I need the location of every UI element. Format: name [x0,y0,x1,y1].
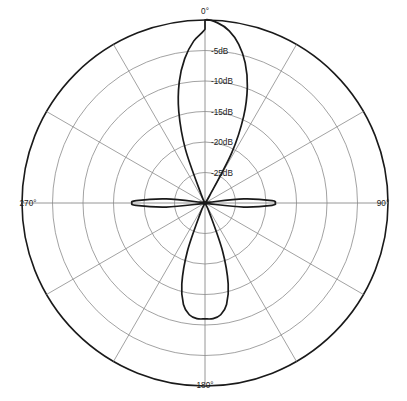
angle-label-90: 90° [377,199,389,208]
angle-label-0: 0° [201,7,209,16]
radiation-pattern-curve [132,20,276,319]
grid-spoke-150 [205,203,297,361]
polar-chart-container: -5dB -10dB -15dB -20dB -25dB 0° 90° 180°… [0,0,407,401]
radial-label-minus20db: -20dB [211,138,233,147]
radial-label-minus25db: -25dB [211,169,233,178]
polar-plot-svg: -5dB -10dB -15dB -20dB -25dB 0° 90° 180°… [0,0,407,401]
grid-spoke-330 [114,45,206,203]
radial-label-minus10db: -10dB [211,77,233,86]
radial-label-minus5db: -5dB [211,47,229,56]
grid-spoke-210 [114,203,206,361]
angle-label-270: 270° [20,199,37,208]
radial-label-minus15db: -15dB [211,108,233,117]
angle-label-180: 180° [197,381,214,390]
